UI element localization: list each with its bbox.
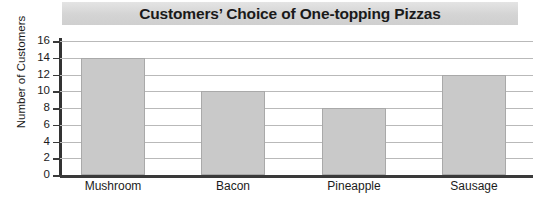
y-axis-tick-labels: 1614121086420 bbox=[26, 0, 50, 200]
x-axis-label-pineapple: Pineapple bbox=[294, 179, 414, 193]
gridline bbox=[60, 41, 533, 42]
y-axis-tick-label: 2 bbox=[28, 152, 50, 164]
y-axis-tick-mark bbox=[53, 142, 60, 144]
y-axis-tick-label: 0 bbox=[28, 169, 50, 181]
y-axis-tick-label: 10 bbox=[28, 85, 50, 97]
bar-bacon bbox=[201, 91, 265, 175]
y-axis-tick-mark bbox=[53, 58, 60, 60]
y-axis-tick-label: 4 bbox=[28, 136, 50, 148]
chart-title: Customers’ Choice of One-topping Pizzas bbox=[62, 2, 518, 25]
y-axis-tick-mark bbox=[53, 158, 60, 160]
y-axis-tick-mark bbox=[53, 175, 60, 177]
x-axis-label-sausage: Sausage bbox=[414, 179, 534, 193]
y-axis-tick-mark bbox=[53, 108, 60, 110]
y-axis-tick-mark bbox=[53, 41, 60, 43]
y-axis-tick-label: 8 bbox=[28, 102, 50, 114]
y-axis-tick-label: 6 bbox=[28, 119, 50, 131]
bar-pineapple bbox=[322, 108, 386, 175]
bar-mushroom bbox=[81, 58, 145, 175]
y-axis-tick-mark bbox=[53, 91, 60, 93]
y-axis-tick-label: 16 bbox=[28, 35, 50, 47]
x-axis-baseline bbox=[60, 175, 533, 178]
y-axis-tick-mark bbox=[53, 75, 60, 77]
y-axis-tick-mark bbox=[53, 125, 60, 127]
bar-sausage bbox=[442, 75, 506, 176]
plot-area bbox=[60, 41, 533, 175]
x-axis-label-bacon: Bacon bbox=[173, 179, 293, 193]
y-axis-tick-label: 14 bbox=[28, 52, 50, 64]
y-axis-tick-label: 12 bbox=[28, 69, 50, 81]
x-axis-label-mushroom: Mushroom bbox=[53, 179, 173, 193]
